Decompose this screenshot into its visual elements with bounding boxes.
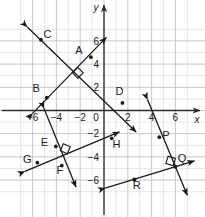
- point-dot-A: [89, 55, 93, 59]
- point-label-E: E: [41, 136, 48, 148]
- grid-major: [0, 0, 205, 217]
- point-label-P: P: [162, 129, 169, 141]
- point-dot-P: [157, 135, 161, 139]
- line-GH: [25, 132, 120, 171]
- line-PQ: [147, 99, 187, 195]
- line-R: [105, 161, 194, 188]
- point-label-F: F: [57, 164, 64, 176]
- y-tick-label-neg6: −6: [88, 175, 100, 186]
- coordinate-plane-svg: −6−4−20246642−2−4−6 xy ABCDEFGHPQR: [0, 0, 205, 217]
- axes: [2, 5, 200, 215]
- y-tick-label-neg4: −4: [88, 152, 100, 163]
- right-angle-PQ-R: [166, 156, 175, 165]
- x-tick-label-neg2: −2: [74, 112, 86, 123]
- point-dot-D: [121, 101, 125, 105]
- x-axis-label: x: [194, 114, 201, 125]
- point-label-C: C: [44, 28, 52, 40]
- x-tick-label-6: 6: [173, 112, 179, 123]
- coordinate-plane-figure: −6−4−20246642−2−4−6 xy ABCDEFGHPQR: [0, 0, 205, 217]
- y-tick-label-4: 4: [93, 59, 99, 70]
- right-angle-PQ-R-square: [166, 156, 175, 165]
- point-dot-Q: [174, 165, 178, 169]
- point-label-A: A: [75, 44, 83, 56]
- point-label-R: R: [133, 179, 141, 191]
- point-label-Q: Q: [178, 152, 187, 164]
- point-dot-B: [45, 96, 49, 100]
- point-label-D: D: [115, 85, 123, 97]
- grid-minor: [0, 0, 205, 217]
- point-label-H: H: [113, 138, 121, 150]
- point-dot-C: [39, 38, 43, 42]
- y-tick-label-neg2: −2: [88, 128, 100, 139]
- x-tick-label-4: 4: [149, 112, 155, 123]
- x-tick-label-2: 2: [125, 112, 131, 123]
- point-label-G: G: [23, 153, 32, 165]
- point-dot-G: [35, 161, 39, 165]
- x-tick-label-neg4: −4: [51, 112, 63, 123]
- x-tick-label-0: 0: [93, 112, 99, 123]
- point-label-B: B: [32, 82, 39, 94]
- point-dot-E: [54, 145, 58, 149]
- y-axis-label: y: [93, 2, 100, 13]
